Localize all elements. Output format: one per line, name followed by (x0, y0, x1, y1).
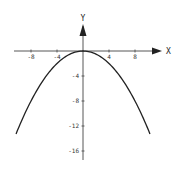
x-axis-label: X (166, 47, 171, 56)
y-ticks: -4-8-12-16 (68, 72, 84, 154)
x-tick-label: 8 (133, 53, 137, 60)
y-tick-label: -16 (68, 147, 79, 154)
y-axis-label: Y (81, 14, 86, 23)
y-tick-label: -8 (72, 97, 80, 104)
x-tick-label: -8 (27, 53, 35, 60)
x-axis-arrow-icon (152, 48, 162, 55)
y-tick-label: -12 (68, 122, 79, 129)
x-tick-label: -4 (53, 53, 61, 60)
x-tick-label: 4 (107, 53, 111, 60)
y-axis-arrow-icon (80, 24, 87, 36)
y-tick-label: -4 (72, 72, 80, 79)
parabola-chart: X Y -8-448 -4-8-12-16 (0, 0, 184, 175)
